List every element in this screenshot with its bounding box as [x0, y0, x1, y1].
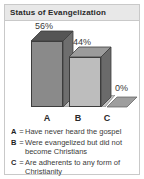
- category-label-a: A: [40, 113, 54, 123]
- bar-a-front-face: [31, 41, 63, 107]
- legend-item: A = Have never heard the gospel: [11, 127, 135, 137]
- bar-b-top-face: [69, 47, 101, 57]
- bar-a: [31, 31, 63, 107]
- bar-a-value-label: 56%: [35, 21, 53, 31]
- bar-b: [69, 47, 101, 107]
- bar-a-top-face: [31, 31, 63, 41]
- bar-b-value-label: 44%: [73, 37, 91, 47]
- legend-key-b: B: [11, 138, 18, 147]
- bar-c: [107, 97, 137, 107]
- legend-text-c: Are adherents to any form of Christianit…: [25, 158, 135, 177]
- chart-legend: A = Have never heard the gospel B = Were…: [5, 127, 141, 178]
- legend-text-b: Were evangelized but did not become Chri…: [25, 138, 135, 157]
- chart-plot-area: 56% 44% 0%: [5, 21, 141, 114]
- chart-title: Status of Evangelization: [10, 8, 106, 17]
- legend-equals-a: =: [18, 127, 25, 136]
- legend-key-c: C: [11, 158, 18, 167]
- category-axis: A B C: [5, 113, 141, 127]
- chart-title-band: Status of Evangelization: [5, 5, 139, 21]
- legend-equals-b: =: [18, 138, 25, 147]
- legend-text-a: Have never heard the gospel: [25, 127, 121, 137]
- legend-key-a: A: [11, 127, 18, 136]
- legend-item: C = Are adherents to any form of Christi…: [11, 158, 135, 177]
- bar-c-top-face: [107, 97, 137, 107]
- legend-equals-c: =: [18, 158, 25, 167]
- bar-c-value-label: 0%: [115, 83, 128, 93]
- category-label-c: C: [100, 113, 114, 123]
- category-label-b: B: [71, 113, 85, 123]
- bar-b-front-face: [69, 57, 101, 107]
- legend-item: B = Were evangelized but did not become …: [11, 138, 135, 157]
- chart-figure: Status of Evangelization: [4, 4, 140, 175]
